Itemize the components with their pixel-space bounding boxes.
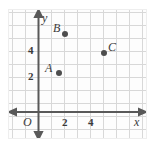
- y-axis-arrow-down: [35, 132, 42, 139]
- x-axis-label: x: [134, 116, 139, 128]
- coordinate-plane-figure: A B C y x O 2 4 2 4: [0, 0, 155, 148]
- y-axis-arrow-up: [35, 10, 42, 17]
- x-tick-label-2: 2: [62, 117, 68, 128]
- x-axis-arrow-right: [139, 109, 146, 115]
- point-label-c: C: [108, 41, 116, 53]
- y-tick-label-2: 2: [28, 71, 34, 82]
- x-axis-arrow-left: [9, 109, 16, 115]
- data-point-b: [62, 31, 68, 37]
- point-label-a: A: [45, 62, 52, 74]
- x-tick-label-4: 4: [88, 117, 94, 128]
- point-label-b: B: [53, 22, 60, 34]
- y-tick-label-4: 4: [28, 45, 34, 56]
- data-point-c: [101, 50, 107, 56]
- origin-label: O: [23, 116, 32, 128]
- data-point-a: [56, 70, 62, 76]
- plot-area: A B C y x O 2 4 2 4: [8, 9, 147, 139]
- y-axis-label: y: [42, 12, 47, 24]
